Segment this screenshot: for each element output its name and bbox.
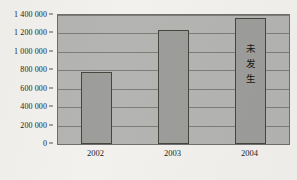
y-axis-tick-mark (49, 50, 53, 51)
gridline (58, 15, 289, 16)
x-axis-tick-label: 2004 (241, 147, 258, 159)
y-axis-tick-mark (49, 32, 53, 33)
y-axis-tick-label: 1 000 000 (14, 46, 47, 55)
y-axis-tick-label: 200 000 (20, 120, 47, 129)
y-axis-tick-label: 600 000 (20, 83, 47, 92)
bar (81, 72, 112, 144)
bar-annotation-character: 生 (236, 71, 265, 86)
y-axis-tick-mark (49, 143, 53, 144)
bar-annotation: 未发生 (236, 41, 265, 86)
bar-chart: 1 400 0001 200 0001 000 000800 000600 00… (0, 0, 297, 180)
y-axis-tick-label: 400 000 (20, 102, 47, 111)
y-axis-tick-mark (49, 69, 53, 70)
x-axis: 200220032004 (57, 147, 290, 163)
bar: 未发生 (235, 18, 266, 144)
y-axis: 1 400 0001 200 0001 000 000800 000600 00… (0, 14, 53, 145)
y-axis-tick-mark (49, 124, 53, 125)
y-axis-tick-label: 800 000 (20, 65, 47, 74)
y-axis-tick-label: 0 (43, 139, 47, 148)
x-axis-tick-label: 2002 (87, 147, 104, 159)
chart-title (40, 0, 280, 4)
y-axis-tick-mark (49, 14, 53, 15)
y-axis-tick-mark (49, 106, 53, 107)
plot-area: 未发生 (57, 14, 290, 145)
y-axis-tick-mark (49, 87, 53, 88)
bar-annotation-character: 发 (236, 56, 265, 71)
bar (158, 30, 189, 144)
y-axis-tick-label: 1 400 000 (14, 10, 47, 19)
y-axis-tick-label: 1 200 000 (14, 28, 47, 37)
bar-annotation-character: 未 (236, 41, 265, 56)
x-axis-tick-label: 2003 (164, 147, 181, 159)
